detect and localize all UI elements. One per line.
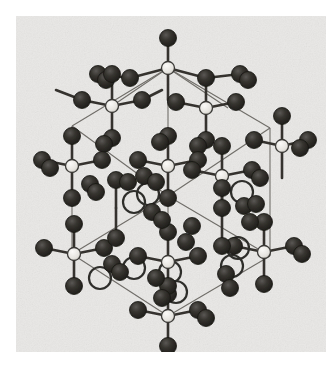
- scan-noise-overlay: [16, 16, 326, 352]
- figure-root: Crystal structure unit cell, ball-and-st…: [0, 0, 326, 372]
- crystal-structure-plate: [16, 16, 326, 352]
- crystal-structure-svg: [16, 16, 326, 352]
